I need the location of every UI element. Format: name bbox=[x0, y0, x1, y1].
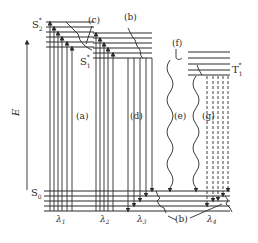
label-c-leader bbox=[86, 26, 92, 44]
absorption-s1-arrows bbox=[96, 34, 113, 211]
label-f: (f) bbox=[172, 38, 182, 48]
fluorescence-arrows bbox=[128, 58, 152, 210]
energy-axis-label: E bbox=[10, 108, 21, 117]
energy-axis: E bbox=[10, 42, 27, 190]
wavelength-l2: λ2 bbox=[99, 214, 110, 225]
t1-label: T1* bbox=[232, 61, 243, 77]
jablonski-diagram: E S2* S1* T1* S0 bbox=[0, 0, 258, 243]
s1-label: S1* bbox=[80, 53, 91, 69]
vibrational-relaxation-s0-left bbox=[156, 191, 166, 213]
label-b-bottom: (b) bbox=[175, 214, 188, 224]
phosphorescence-arrows bbox=[207, 76, 228, 205]
vibrational-relaxation-s0-right bbox=[225, 196, 232, 212]
label-e: (e) bbox=[174, 111, 186, 121]
wavelength-l3: λ3 bbox=[136, 214, 147, 225]
label-c: (c) bbox=[88, 15, 100, 25]
label-d: (d) bbox=[130, 111, 143, 121]
label-a: (a) bbox=[76, 111, 88, 121]
internal-conversion-path bbox=[66, 22, 92, 50]
s0-label: S0 bbox=[31, 187, 42, 200]
intersystem-crossing-symbol bbox=[176, 49, 182, 60]
wavelength-l1: λ1 bbox=[55, 214, 66, 225]
wavelength-l4: λ4 bbox=[206, 214, 217, 225]
absorption-s2-arrows bbox=[50, 23, 72, 211]
t1-levels bbox=[188, 52, 230, 75]
s2-label: S2* bbox=[32, 16, 43, 32]
label-g: (g) bbox=[202, 111, 215, 121]
s1-levels bbox=[93, 33, 152, 58]
wavy-decay-arrow-2 bbox=[193, 76, 199, 190]
wavy-decay-arrow-1 bbox=[167, 60, 173, 190]
label-b-top: (b) bbox=[124, 12, 137, 22]
